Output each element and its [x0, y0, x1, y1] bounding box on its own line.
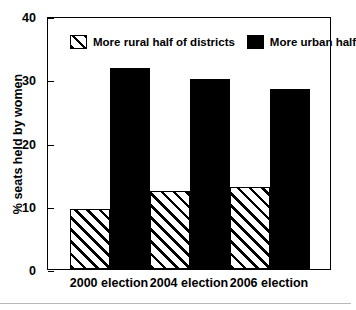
legend-item-urban: More urban half	[247, 35, 356, 49]
bar-urban-0	[110, 68, 150, 269]
legend-label-urban: More urban half	[270, 36, 356, 48]
y-tick-label: 0	[29, 264, 36, 278]
x-tick-label: 2006 election	[230, 276, 309, 290]
plot-inner: 010203040	[48, 18, 330, 269]
x-tick-label: 2004 election	[150, 276, 229, 290]
y-tick-mark	[48, 81, 54, 82]
y-tick-mark	[48, 18, 54, 19]
x-tick-label: 2000 election	[70, 276, 149, 290]
bar-urban-2	[270, 89, 310, 269]
legend-label-rural: More rural half of districts	[93, 36, 235, 48]
y-tick-mark	[48, 145, 54, 146]
bar-rural-1	[150, 191, 190, 269]
bar-urban-1	[190, 79, 230, 269]
hatched-swatch-icon	[70, 35, 87, 49]
plot-area: 010203040	[47, 17, 331, 270]
legend-item-rural: More rural half of districts	[70, 35, 235, 49]
y-tick-mark	[48, 208, 54, 209]
solid-black-swatch-icon	[247, 35, 264, 49]
page-divider	[0, 303, 351, 304]
y-tick-label: 40	[22, 11, 36, 25]
y-tick-label: 10	[22, 201, 36, 215]
bar-rural-0	[70, 209, 110, 269]
y-tick-label: 20	[22, 138, 36, 152]
bar-rural-2	[230, 187, 270, 269]
y-tick-label: 30	[22, 74, 36, 88]
chart-legend: More rural half of districts More urban …	[70, 35, 356, 49]
y-tick-mark	[48, 271, 54, 272]
